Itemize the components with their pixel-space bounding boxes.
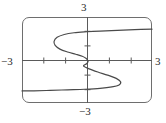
axis-label-left: −3: [1, 56, 13, 67]
axis-label-bottom: −3: [79, 106, 91, 117]
axis-label-right: 3: [155, 56, 161, 67]
graph-screenshot: 3 −3 −3 3: [0, 0, 166, 123]
axis-label-top: 3: [81, 2, 87, 13]
